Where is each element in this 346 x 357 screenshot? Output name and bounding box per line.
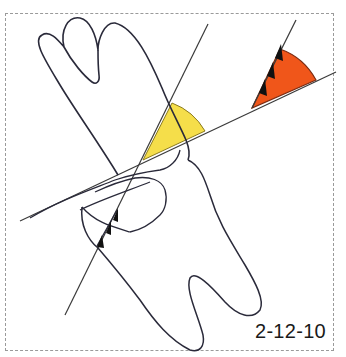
tooth-axis-line bbox=[65, 24, 208, 315]
pulp-chamber-outline bbox=[30, 150, 180, 232]
tooth-outline-inner-cusps bbox=[64, 47, 99, 83]
dental-angle-figure: 2-12-10 bbox=[0, 0, 346, 357]
left-root-outline bbox=[82, 160, 262, 351]
orange-angle-sector bbox=[252, 49, 316, 108]
yellow-angle-sector bbox=[143, 103, 205, 160]
figure-label: 2-12-10 bbox=[255, 320, 326, 343]
diagram-canvas bbox=[0, 0, 346, 357]
